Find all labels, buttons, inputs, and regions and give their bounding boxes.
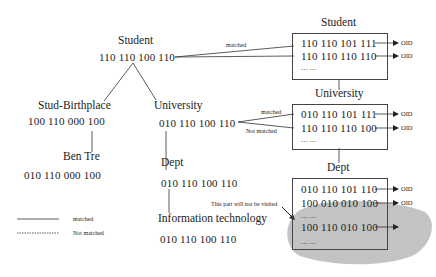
oid-label: OID — [401, 125, 413, 132]
oid-label: OID — [401, 186, 413, 193]
oid-label: OID — [401, 200, 413, 207]
index-dept-row-ellipsis: ... ... — [301, 238, 316, 246]
index-university-row: 110 110 110 100 — [301, 123, 377, 134]
index-dept-row-ellipsis: ... ... — [301, 212, 316, 220]
tree-node-ben-tre-code: 010 110 000 100 — [24, 170, 101, 181]
index-university-row: 010 110 101 111 — [301, 109, 377, 120]
tree-node-university-code: 010 110 100 110 — [159, 118, 235, 129]
tree-node-student-code: 110 110 100 110 — [99, 52, 175, 63]
tree-node-info-tech-label: Information technology — [158, 213, 267, 225]
index-student-row-ellipsis: ... ... — [301, 64, 316, 72]
edge-label-university-not-matched: Not matched — [246, 128, 277, 134]
index-dept-row: 100 010 010 100 — [301, 198, 378, 209]
index-dept-row: 010 110 101 110 — [301, 184, 377, 195]
tree-node-student-label: Student — [118, 35, 153, 47]
tree-node-dept-code: 010 110 100 110 — [161, 178, 237, 189]
index-student-row: 110 110 101 111 — [301, 38, 377, 49]
tree-node-ben-tre-label: Ben Tre — [63, 151, 100, 163]
index-dept-title: Dept — [327, 162, 349, 174]
oid-label: OID — [401, 40, 413, 47]
index-university-title: University — [315, 88, 364, 100]
tree-node-stud-birthplace-code: 100 110 000 100 — [28, 116, 105, 127]
legend-not-matched-label: Not matched — [73, 230, 104, 236]
edge-label-university-matched: matched — [261, 109, 281, 115]
index-student-title: Student — [321, 17, 356, 29]
index-dept-row: 100 110 010 100 — [301, 222, 378, 233]
annotation-not-visited: This part will not be visited — [211, 201, 277, 207]
index-student-row: 110 110 110 110 — [301, 51, 377, 62]
tree-node-university-label: University — [154, 100, 203, 112]
oid-label: OID — [401, 53, 413, 60]
edge-label-student-matched: matched — [226, 42, 246, 48]
tree-node-stud-birthplace-label: Stud-Birthplace — [38, 100, 111, 112]
index-university-row-ellipsis: ... ... — [301, 136, 316, 144]
legend-matched-label: matched — [73, 216, 93, 222]
oid-label: OID — [401, 111, 413, 118]
tree-node-dept-label: Dept — [161, 157, 183, 169]
tree-node-info-tech-code: 010 110 100 110 — [160, 234, 236, 245]
